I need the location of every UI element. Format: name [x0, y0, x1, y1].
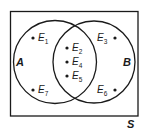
- element-e7-dot: [31, 88, 34, 91]
- universe-label: S: [127, 118, 135, 130]
- element-e5-label: E5: [72, 70, 83, 83]
- element-e4-dot: [65, 60, 68, 63]
- element-e1-label: E1: [38, 32, 49, 45]
- element-e6-label: E6: [97, 84, 108, 97]
- element-e6-dot: [113, 88, 116, 91]
- set-b-label: B: [123, 56, 131, 68]
- element-e3-dot: [113, 36, 116, 39]
- element-e1-dot: [31, 36, 34, 39]
- element-e4-label: E4: [72, 56, 83, 69]
- element-e7-label: E7: [38, 84, 49, 97]
- set-a-circle: [14, 21, 97, 104]
- set-a-label: A: [15, 56, 24, 68]
- venn-diagram: A B S E1 E7 E2 E4 E5 E3 E6: [0, 0, 147, 134]
- element-e5-dot: [65, 74, 68, 77]
- element-e2-label: E2: [72, 42, 83, 55]
- element-e3-label: E3: [97, 32, 108, 45]
- element-e2-dot: [65, 46, 68, 49]
